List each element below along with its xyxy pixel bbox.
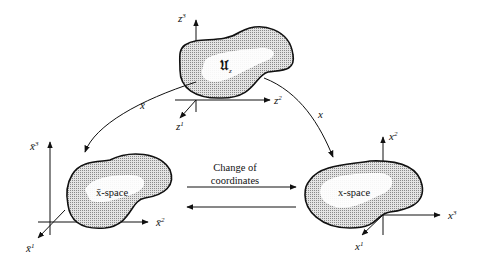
z1-axis [180, 100, 196, 118]
xbar-space-label: x̄-space [96, 187, 128, 198]
change-label-line2: coordinates [211, 175, 259, 186]
map-xbar-arrow [85, 82, 196, 152]
coordinate-diagram: 𝔘z z3 z2 z1 x̄ x x̄-space x̄3 x̄2 x̄1 Ch… [0, 0, 480, 268]
map-xbar-label: x̄ [139, 99, 145, 111]
x3-label: x3 [447, 209, 457, 221]
xbar3-label: x̄3 [29, 140, 39, 152]
change-label-line1: Change of [213, 162, 257, 173]
xbar1-axis [38, 210, 65, 238]
x-space-group: x-space x2 x3 x1 [305, 130, 457, 252]
map-x-label: x [317, 108, 323, 120]
xbar-space-group: x̄-space x̄3 x̄2 x̄1 [25, 140, 172, 254]
xbar1-label: x̄1 [25, 242, 34, 254]
z3-label: z3 [177, 12, 186, 24]
x-space-label: x-space [338, 187, 370, 198]
x1-label: x1 [354, 240, 363, 252]
z2-label: z2 [273, 94, 282, 106]
x2-label: x2 [388, 130, 398, 142]
z1-label: z1 [175, 120, 184, 132]
patch-region-group: 𝔘z z3 z2 z1 [175, 12, 293, 132]
xbar2-label: x̄2 [155, 216, 165, 228]
